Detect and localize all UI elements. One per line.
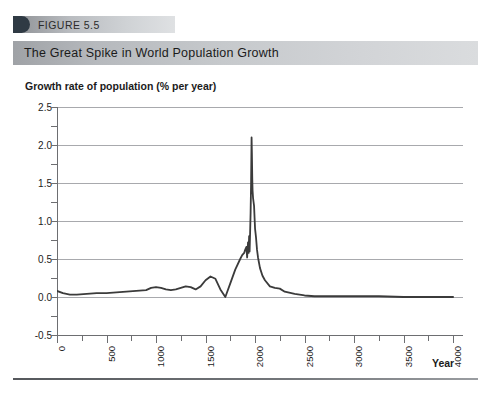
y-axis-tick-label: 2.0 — [38, 140, 52, 151]
x-axis-tick-label: 1000 — [155, 346, 166, 367]
x-axis-tick — [230, 336, 231, 341]
x-axis-tick-label: 4000 — [452, 346, 463, 367]
chart: Growth rate of population (% per year) -… — [0, 70, 499, 370]
y-axis-tick-label: 0.0 — [38, 292, 52, 303]
figure-container: FIGURE 5.5 The Great Spike in World Popu… — [0, 0, 499, 393]
y-axis-tick — [51, 107, 57, 108]
y-axis-tick — [51, 297, 57, 298]
x-axis-tick — [379, 336, 380, 341]
x-axis-tick-label: 3500 — [402, 346, 413, 367]
x-axis-line — [57, 335, 463, 336]
y-axis-tick — [51, 202, 57, 203]
y-axis-tick-label: 1.0 — [38, 216, 52, 227]
figure-number-label: FIGURE 5.5 — [38, 19, 100, 31]
y-axis-tick — [51, 145, 57, 146]
x-axis-tick-label: 3000 — [353, 346, 364, 367]
growth-rate-line — [57, 107, 463, 302]
y-axis-tick-label: 1.5 — [38, 178, 52, 189]
y-axis-tick — [51, 316, 57, 317]
x-axis-tick — [404, 336, 405, 343]
x-axis-tick — [156, 336, 157, 343]
figure-title: The Great Spike in World Population Grow… — [24, 46, 279, 60]
x-axis-tick-label: 0 — [56, 346, 67, 351]
x-axis-tick — [329, 336, 330, 341]
x-axis-tick — [354, 336, 355, 343]
figure-bottom-rule — [13, 378, 478, 380]
y-axis-tick — [51, 278, 57, 279]
x-axis-tick — [57, 336, 58, 343]
figure-tag: FIGURE 5.5 — [13, 16, 175, 33]
x-axis-tick — [453, 336, 454, 343]
x-axis-tick — [181, 336, 182, 341]
y-axis-tick — [51, 164, 57, 165]
x-axis-tick — [107, 336, 108, 343]
x-axis-tick — [206, 336, 207, 343]
x-axis-tick — [131, 336, 132, 341]
y-axis-tick — [51, 221, 57, 222]
figure-tag-cap-icon — [13, 16, 30, 33]
x-axis-tick-label: 2000 — [254, 346, 265, 367]
y-axis-tick — [51, 183, 57, 184]
x-axis-tick-label: 2500 — [303, 346, 314, 367]
x-axis-tick — [305, 336, 306, 343]
y-axis-title: Growth rate of population (% per year) — [25, 80, 216, 92]
y-axis-tick-label: 2.5 — [38, 102, 52, 113]
x-axis-tick — [280, 336, 281, 341]
figure-title-banner: The Great Spike in World Population Grow… — [13, 41, 478, 65]
y-axis-tick — [51, 240, 57, 241]
y-axis-tick-label: 0.5 — [38, 254, 52, 265]
x-axis-tick — [255, 336, 256, 343]
y-axis-tick — [51, 126, 57, 127]
y-axis-tick-label: -0.5 — [35, 330, 52, 341]
x-axis-tick — [428, 336, 429, 341]
x-axis-tick-label: 500 — [105, 346, 116, 362]
x-axis-tick — [82, 336, 83, 341]
y-axis-tick — [51, 259, 57, 260]
x-axis-tick-label: 1500 — [204, 346, 215, 367]
